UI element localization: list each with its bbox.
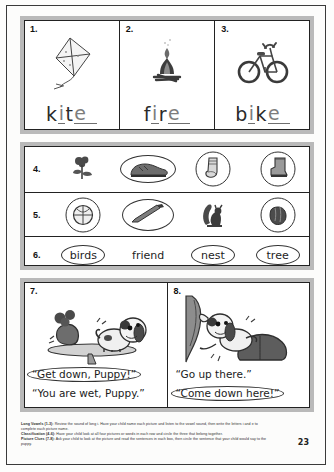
- item-number: 6.: [33, 250, 49, 260]
- exercise-item-1[interactable]: 1.: [24, 20, 119, 130]
- page-number: 23: [298, 438, 309, 447]
- letter-printed: k: [255, 104, 267, 124]
- glove-illustration: [264, 201, 292, 229]
- ball-illustration: [70, 202, 96, 228]
- sentence-option[interactable]: “You are wet, Puppy.”: [29, 386, 148, 401]
- footer-title: Long Vowels (1-3):: [21, 422, 54, 426]
- letter-written: i: [248, 103, 255, 124]
- sentence-list-8: “Go up there.” “Come down here!”: [173, 364, 306, 402]
- classification-row-4: 4.: [24, 146, 310, 192]
- footer-body: Review the sound of long i. Have your ch…: [21, 422, 258, 431]
- sock-illustration: [199, 153, 227, 185]
- blank-line: [281, 105, 290, 124]
- footer-instructions: Long Vowels (1-3): Review the sound of l…: [21, 422, 271, 447]
- choice-ball[interactable]: [51, 202, 116, 228]
- word-line-3[interactable]: bike: [219, 100, 306, 124]
- letter-written: e: [168, 103, 182, 124]
- letter-written: e: [74, 103, 88, 124]
- letter-printed: k: [46, 104, 58, 124]
- exercise-item-3[interactable]: 3.: [214, 20, 310, 130]
- choice-rose[interactable]: [51, 152, 116, 186]
- footer-title: Classification (4-6):: [21, 432, 55, 436]
- choice-word-friend[interactable]: friend: [116, 249, 181, 262]
- kite-illustration: [24, 32, 119, 94]
- letter-printed: r: [159, 104, 168, 124]
- footer-line-long-vowels: Long Vowels (1-3): Review the sound of l…: [21, 422, 271, 432]
- word-option-label: friend: [132, 249, 164, 262]
- footer-title: Picture Clues (7-8):: [21, 437, 55, 441]
- word-option-label: nest: [201, 249, 225, 262]
- section-classification: 4.: [20, 142, 314, 270]
- letter-printed: t: [65, 104, 73, 124]
- choice-boot[interactable]: [245, 153, 310, 185]
- blank-line: [181, 105, 190, 124]
- choice-word-birds[interactable]: birds: [51, 249, 116, 262]
- item-number: 5.: [33, 210, 49, 220]
- choice-glove[interactable]: [245, 201, 310, 229]
- shoe-illustration: [125, 156, 171, 182]
- letter-written: i: [151, 103, 158, 124]
- classification-row-5: 5.: [24, 192, 310, 237]
- footer-line-picture-clues: Picture Clues (7-8): Ask your child to l…: [21, 437, 271, 447]
- rose-illustration: [66, 152, 100, 186]
- worksheet-page: 1.: [6, 5, 326, 465]
- squirrel-illustration: [198, 199, 228, 231]
- puppy-climbing-curtain-illustration: [168, 294, 311, 366]
- letter-printed: f: [144, 104, 152, 124]
- exercise-item-8[interactable]: 8.: [167, 282, 311, 408]
- choice-shoe[interactable]: [116, 156, 181, 182]
- boot-illustration: [263, 153, 293, 185]
- bicycle-illustration: [215, 32, 310, 94]
- item-number: 4.: [33, 164, 49, 174]
- sentence-option[interactable]: “Go up there.”: [173, 367, 255, 382]
- letter-written: e: [268, 103, 282, 124]
- bat-illustration: [126, 203, 170, 227]
- sentence-option[interactable]: “Come down here!”: [173, 386, 283, 401]
- word-option-label: tree: [267, 249, 289, 262]
- footer-body: Have your child look at all four picture…: [56, 432, 222, 436]
- letter-written: i: [58, 103, 65, 124]
- section-long-vowels: 1.: [20, 16, 314, 134]
- choice-bat[interactable]: [116, 203, 181, 227]
- sentence-list-7: “Get down, Puppy!” “You are wet, Puppy.”: [29, 364, 162, 402]
- word-option-label: birds: [70, 249, 97, 262]
- blank-line: [88, 105, 97, 124]
- campfire-illustration: [120, 32, 215, 94]
- exercise-item-7[interactable]: 7.: [24, 282, 167, 408]
- exercise-item-2[interactable]: 2.: [119, 20, 215, 130]
- puppy-on-table-illustration: [24, 294, 167, 366]
- choice-sock[interactable]: [181, 153, 246, 185]
- section-picture-clues: 7.: [20, 278, 314, 412]
- classification-row-6: 6. birds friend nest tree: [24, 236, 310, 273]
- sentence-option[interactable]: “Get down, Puppy!”: [29, 367, 139, 382]
- word-line-2[interactable]: fire: [124, 100, 211, 124]
- choice-squirrel[interactable]: [181, 199, 246, 231]
- word-line-1[interactable]: kite: [28, 100, 115, 124]
- choice-word-nest[interactable]: nest: [181, 249, 246, 262]
- letter-printed: b: [235, 104, 248, 124]
- footer-body: Ask your child to look at the picture an…: [21, 437, 266, 446]
- choice-word-tree[interactable]: tree: [245, 249, 310, 262]
